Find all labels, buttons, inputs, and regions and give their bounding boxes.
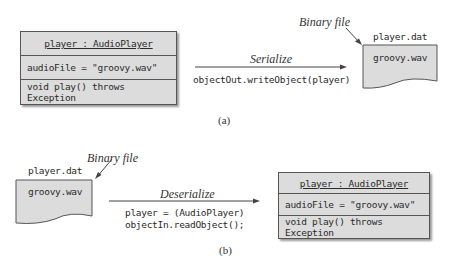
binary-file-callout-b: Binary file	[87, 151, 138, 166]
file-name-a: player.dat	[373, 31, 427, 42]
deserialize-code-line1: player = (AudioPlayer)	[125, 207, 244, 218]
caption-b: (b)	[219, 244, 232, 256]
object-box-b: player : AudioPlayer audioFile = "groovy…	[278, 172, 430, 239]
object-box-a: player : AudioPlayer audioFile = "groovy…	[20, 31, 177, 105]
serialize-code: objectOut.writeObject(player)	[193, 74, 350, 85]
caption-a: (a)	[218, 114, 230, 126]
object-box-title: player : AudioPlayer	[21, 32, 176, 56]
object-box-title: player : AudioPlayer	[279, 173, 429, 194]
deserialize-label: Deserialize	[160, 187, 215, 202]
object-box-attribute: audioFile = "groovy.wav"	[279, 194, 429, 216]
file-content-b: groovy.wav	[28, 186, 82, 197]
deserialize-code-line2: objectIn.readObject();	[125, 219, 244, 230]
binary-file-callout-a: Binary file	[299, 15, 350, 30]
arrow-head-icon	[340, 65, 347, 70]
arrow-head-icon	[253, 199, 260, 204]
serialize-label: Serialize	[250, 52, 292, 67]
object-box-attribute: audioFile = "groovy.wav"	[21, 56, 176, 80]
object-box-method: void play() throws Exception	[279, 216, 429, 238]
object-box-method: void play() throws Exception	[21, 80, 176, 104]
file-content-a: groovy.wav	[373, 52, 427, 63]
file-name-b: player.dat	[28, 165, 82, 176]
